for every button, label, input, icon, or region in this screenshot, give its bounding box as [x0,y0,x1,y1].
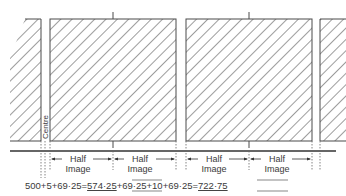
dimension-half-image-4: Half Image [250,154,311,174]
equation: 500+5+69·25=574·25+69·25+10+69·25=722·75 [25,180,228,191]
partial-image-right [320,19,346,141]
equation-result1: 574·25 [87,180,117,191]
svg-text:Half: Half [269,154,286,164]
partial-image-left [10,19,41,141]
svg-text:Image: Image [65,164,90,174]
svg-text:Half: Half [132,154,149,164]
svg-text:Half: Half [70,154,87,164]
dimension-half-image-3: Half Image [187,154,248,174]
dimension-half-image-1: Half Image [51,154,112,174]
image-frame-2 [186,19,312,141]
svg-text:Image: Image [201,164,226,174]
centre-label: Centre [41,114,50,139]
equation-part1: 500+5+69·25= [25,180,88,191]
equation-part2: +69·25+10+69·25= [117,180,199,191]
dimension-half-image-2: Half Image [114,154,175,174]
svg-text:Image: Image [127,164,152,174]
layout-diagram: Centre Half Image Half Image Half Image … [0,0,346,196]
image-frame-1 [50,19,176,141]
svg-text:Half: Half [206,154,223,164]
equation-result2: 722·75 [198,180,228,191]
svg-text:Image: Image [264,164,289,174]
